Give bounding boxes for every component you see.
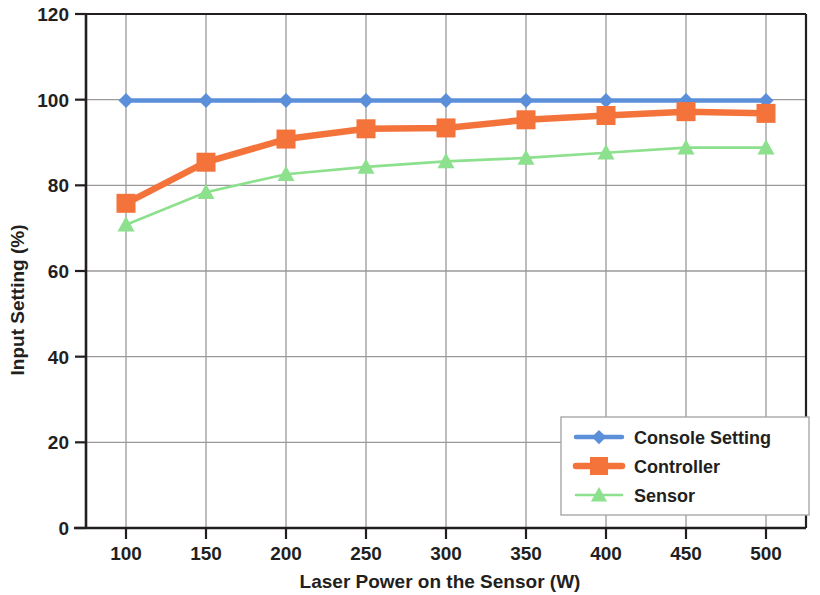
x-axis-tick-label: 100 (110, 543, 142, 564)
data-point-marker (197, 153, 216, 172)
y-axis-tick-label: 60 (48, 261, 69, 282)
y-axis-tick-label: 120 (37, 4, 69, 25)
legend-label: Sensor (634, 486, 695, 506)
y-axis-tick-label: 20 (48, 432, 69, 453)
x-axis-tick-label: 400 (590, 543, 622, 564)
x-axis-tick-label: 500 (750, 543, 782, 564)
legend-label: Controller (634, 457, 720, 477)
data-point-marker (437, 118, 456, 137)
data-point-marker (757, 104, 776, 123)
x-axis-tick-label: 250 (350, 543, 382, 564)
x-axis-tick-label: 200 (270, 543, 302, 564)
legend-label: Console Setting (634, 428, 771, 448)
data-point-marker (597, 106, 616, 125)
x-axis-tick-label: 150 (190, 543, 222, 564)
y-axis-tick-label: 0 (58, 518, 69, 539)
data-point-marker (677, 102, 696, 121)
legend-item: Controller (576, 457, 720, 477)
x-axis-tick-label: 450 (670, 543, 702, 564)
chart-container: 020406080100120 100150200250300350400450… (0, 0, 820, 595)
x-axis-title: Laser Power on the Sensor (W) (300, 571, 581, 592)
data-point-marker (517, 110, 536, 129)
y-axis-tick-label: 40 (48, 347, 69, 368)
data-point-marker (277, 130, 296, 149)
y-axis-title: Input Setting (%) (7, 225, 28, 376)
data-point-marker (357, 119, 376, 138)
data-point-marker (117, 194, 136, 213)
x-axis-tick-label: 300 (430, 543, 462, 564)
chart-legend: Console SettingControllerSensor (561, 417, 809, 515)
x-axis-tick-labels: 100150200250300350400450500 (110, 543, 782, 564)
y-axis-tick-label: 100 (37, 90, 69, 111)
x-axis-tick-label: 350 (510, 543, 542, 564)
line-chart: 020406080100120 100150200250300350400450… (0, 0, 820, 595)
y-axis-tick-label: 80 (48, 175, 69, 196)
data-point-marker (590, 457, 608, 475)
